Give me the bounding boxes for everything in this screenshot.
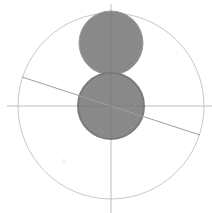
faint-mark: i <box>63 156 65 165</box>
diagram-canvas: i <box>0 0 212 213</box>
